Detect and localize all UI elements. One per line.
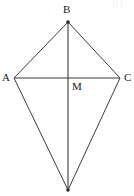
top-right-scan-artifact: [113, 1, 123, 8]
vertex-dot-d: [66, 188, 70, 192]
diagram-background: [0, 0, 134, 196]
kite-diagram-svg: [0, 0, 134, 196]
vertex-label-c: C: [124, 72, 131, 83]
vertex-label-m: M: [72, 81, 82, 92]
vertex-label-a: A: [2, 72, 10, 83]
vertex-dot-b: [66, 20, 70, 24]
geometry-figure-kite: B A C M: [0, 0, 134, 196]
vertex-label-b: B: [63, 4, 70, 15]
